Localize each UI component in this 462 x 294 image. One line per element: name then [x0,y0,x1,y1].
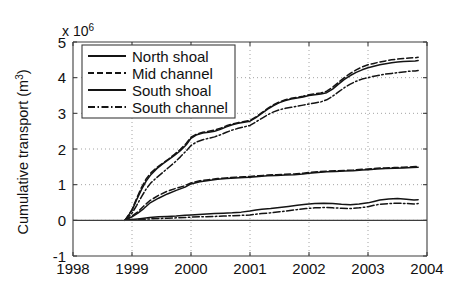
x-tick-label: 2004 [410,260,443,277]
x-tick-label: 2003 [351,260,384,277]
y-tick-label: -1 [53,248,66,265]
series-line-south-shoal [125,199,418,221]
y-tick-label: 4 [58,69,66,86]
x-tick-labels: 1998199920002001200220032004 [56,260,443,277]
chart-canvas: 1998199920002001200220032004 -1012345 No… [0,0,462,294]
y-tick-label: 1 [58,176,66,193]
figure-container: 1998199920002001200220032004 -1012345 No… [0,0,462,294]
y-axis-exponent-label: x 106 [62,22,94,39]
series-line-south-channel [125,203,418,220]
x-tick-label: 2002 [292,260,325,277]
x-tick-label: 2000 [174,260,207,277]
x-tick-label: 1999 [115,260,148,277]
legend-label-mid-channel: Mid channel [132,65,213,82]
y-tick-label: 0 [58,212,66,229]
legend: North shoalMid channelSouth shoalSouth c… [82,45,235,118]
x-tick-label: 2001 [233,260,266,277]
y-tick-label: 2 [58,141,66,158]
y-axis-title: Cumulative transport (m3) [14,69,31,234]
legend-label-south-shoal: South shoal [132,82,211,99]
y-tick-label: 3 [58,105,66,122]
y-tick-labels: -1012345 [53,34,66,265]
legend-label-south-channel: South channel [132,99,228,116]
legend-label-north-shoal: North shoal [132,48,209,65]
